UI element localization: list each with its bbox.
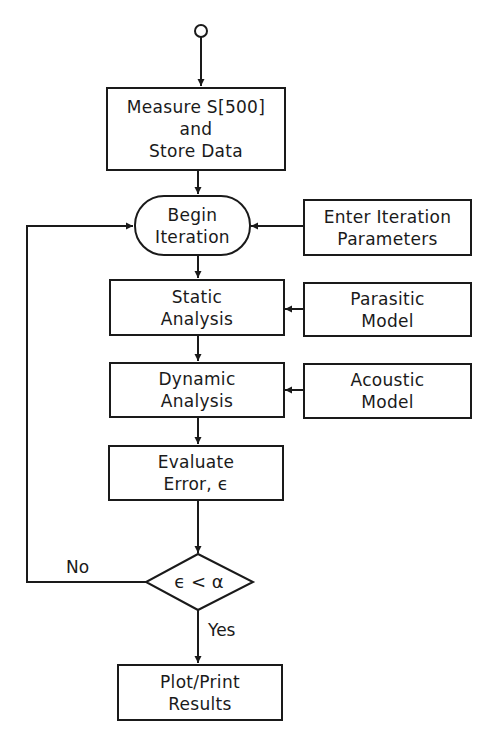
parasitic-model-box: Parasitic Model bbox=[303, 282, 472, 337]
begin-iteration-terminal: Begin Iteration bbox=[134, 195, 251, 256]
dynamic-line-1: Dynamic bbox=[158, 368, 235, 390]
acoustic-model-box: Acoustic Model bbox=[303, 363, 472, 419]
yes-branch-label: Yes bbox=[208, 620, 235, 640]
dynamic-analysis-box: Dynamic Analysis bbox=[109, 362, 285, 418]
static-analysis-box: Static Analysis bbox=[109, 279, 285, 336]
measure-line-1: Measure S[500] bbox=[127, 96, 265, 118]
acoustic-line-2: Model bbox=[361, 391, 414, 413]
static-line-2: Analysis bbox=[161, 308, 233, 330]
evaluate-error-box: Evaluate Error, ϵ bbox=[108, 445, 284, 501]
enter-line-1: Enter Iteration bbox=[324, 206, 452, 228]
plot-line-2: Results bbox=[168, 693, 231, 715]
enter-line-2: Parameters bbox=[337, 228, 437, 250]
parasitic-line-2: Model bbox=[361, 310, 414, 332]
measure-line-2: and bbox=[180, 118, 213, 140]
static-line-1: Static bbox=[172, 286, 222, 308]
start-terminal-circle-icon bbox=[195, 25, 207, 37]
measure-and-store-box: Measure S[500] and Store Data bbox=[106, 87, 286, 171]
measure-line-3: Store Data bbox=[149, 140, 243, 162]
plot-line-1: Plot/Print bbox=[160, 671, 240, 693]
no-branch-label: No bbox=[66, 557, 89, 577]
acoustic-line-1: Acoustic bbox=[351, 369, 425, 391]
evaluate-line-2: Error, ϵ bbox=[163, 473, 228, 495]
begin-line-1: Begin bbox=[168, 204, 218, 226]
dynamic-line-2: Analysis bbox=[161, 390, 233, 412]
plot-print-results-box: Plot/Print Results bbox=[117, 664, 283, 721]
parasitic-line-1: Parasitic bbox=[350, 288, 424, 310]
decision-condition-text: ϵ < α bbox=[149, 572, 249, 592]
enter-iteration-parameters-box: Enter Iteration Parameters bbox=[303, 199, 472, 256]
evaluate-line-1: Evaluate bbox=[158, 451, 235, 473]
begin-line-2: Iteration bbox=[155, 226, 230, 248]
